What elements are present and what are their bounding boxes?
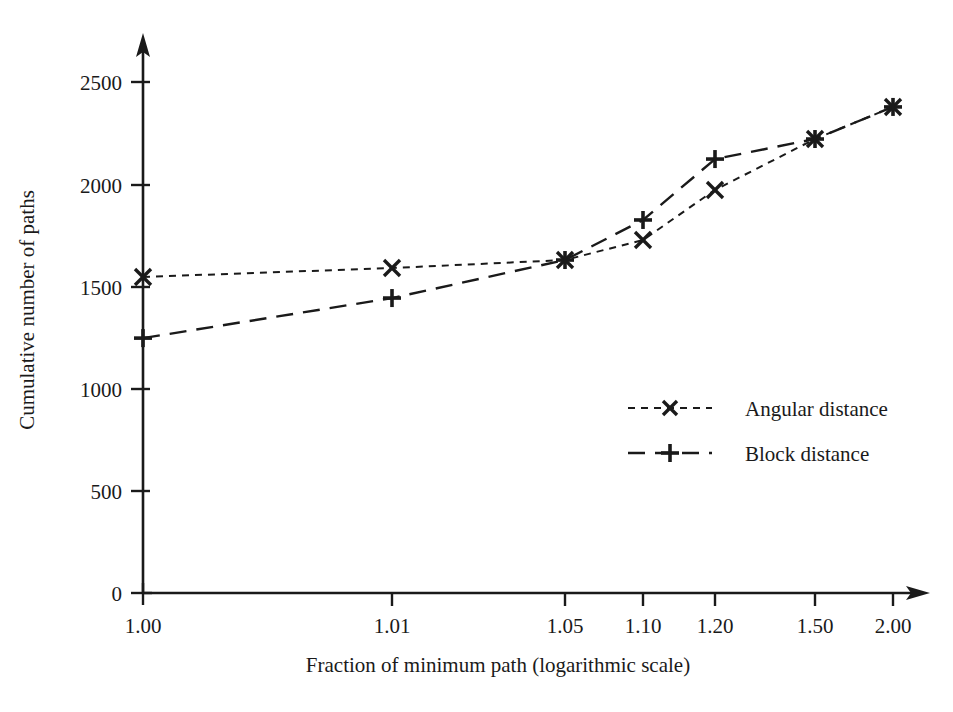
x-tick-label-1-00: 1.00 bbox=[125, 614, 162, 638]
x-tick-label-1-20: 1.20 bbox=[697, 614, 734, 638]
x-tick-label-1-10: 1.10 bbox=[625, 614, 662, 638]
y-tick-label-2000: 2000 bbox=[80, 174, 122, 198]
x-tick-label-1-50: 1.50 bbox=[797, 614, 834, 638]
y-tick-label-0: 0 bbox=[112, 582, 123, 606]
y-tick-label-1500: 1500 bbox=[80, 276, 122, 300]
x-tick-label-1-05: 1.05 bbox=[547, 614, 584, 638]
x-axis-title: Fraction of minimum path (logarithmic sc… bbox=[306, 653, 690, 677]
chart-figure: 0 500 1000 1500 2000 2500 1.00 1.01 1.05… bbox=[0, 0, 953, 712]
x-tick-label-2-00: 2.00 bbox=[875, 614, 912, 638]
cumulative-paths-line-chart: 0 500 1000 1500 2000 2500 1.00 1.01 1.05… bbox=[0, 0, 953, 712]
legend-label-angular-distance: Angular distance bbox=[745, 397, 888, 421]
y-axis-title: Cumulative number of paths bbox=[15, 190, 39, 430]
y-tick-label-2500: 2500 bbox=[80, 71, 122, 95]
x-tick-label-1-01: 1.01 bbox=[374, 614, 411, 638]
y-tick-label-1000: 1000 bbox=[80, 378, 122, 402]
y-tick-label-500: 500 bbox=[91, 480, 123, 504]
legend-label-block-distance: Block distance bbox=[745, 442, 869, 466]
